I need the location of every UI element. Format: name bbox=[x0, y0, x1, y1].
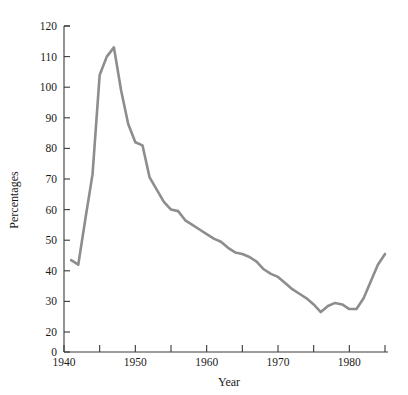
y-tick-label: 50 bbox=[46, 234, 58, 246]
data-series-line bbox=[71, 47, 385, 312]
y-tick-label: 100 bbox=[40, 81, 58, 93]
chart-container: 02030405060708090100110120 1940195019601… bbox=[0, 0, 408, 395]
y-tick-label: 70 bbox=[46, 173, 58, 185]
x-axis-title: Year bbox=[218, 375, 240, 389]
y-tick-label: 80 bbox=[46, 142, 58, 154]
x-tick-label: 1940 bbox=[53, 356, 76, 368]
y-tick-label: 110 bbox=[40, 51, 57, 63]
y-tick-label: 20 bbox=[46, 326, 58, 338]
percentages-vs-year-line-chart: 02030405060708090100110120 1940195019601… bbox=[0, 0, 408, 395]
x-tick-label: 1970 bbox=[267, 356, 290, 368]
y-tick-label: 120 bbox=[40, 20, 58, 32]
y-axis-title: Percentages bbox=[7, 171, 21, 229]
y-tick-label: 30 bbox=[46, 295, 58, 307]
x-tick-label: 1960 bbox=[195, 356, 218, 368]
x-axis: 19401950196019701980 bbox=[53, 345, 389, 368]
x-tick-label: 1950 bbox=[124, 356, 147, 368]
y-tick-label: 40 bbox=[46, 265, 58, 277]
y-tick-label: 90 bbox=[46, 112, 58, 124]
x-tick-label: 1980 bbox=[338, 356, 361, 368]
y-axis: 02030405060708090100110120 bbox=[40, 20, 70, 358]
y-tick-label: 60 bbox=[46, 204, 58, 216]
